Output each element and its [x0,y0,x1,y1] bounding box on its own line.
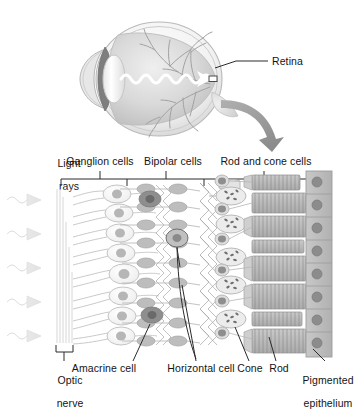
light-ray-arrows [7,194,41,342]
pigmented-epithelium [306,171,332,357]
outer-segments [244,175,306,353]
rod-and-cone-cells-label: Rod and cone cells [206,156,326,168]
cone-cells [209,180,246,328]
pigmented-epithelium-label: Pigmented epithelium [288,363,356,413]
amacrine-cell-label: Amacrine cell [55,363,153,375]
optic-nerve-bundle-body [56,189,73,344]
retina-label: Retina [272,56,303,68]
bipolar-cells-label: Bipolar cells [133,156,213,168]
zoom-arrow [221,100,284,152]
photoreceptor-layer [209,175,306,353]
eye-diagram [0,0,359,152]
outer-plexiform-layer [200,183,217,345]
horizontal-cell [166,229,188,247]
